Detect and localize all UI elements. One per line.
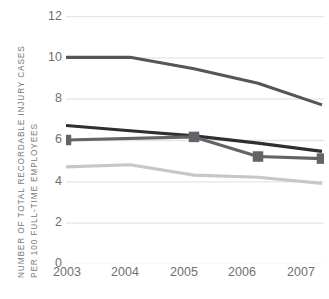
marker-series-3-square-markers-2007 <box>317 153 324 164</box>
line-series-1-dark-gray <box>66 57 322 105</box>
x-tick-2004: 2004 <box>102 266 148 279</box>
x-tick-2007: 2007 <box>278 266 324 279</box>
x-tick-2003: 2003 <box>44 266 90 279</box>
marker-series-3-square-markers-2003 <box>66 135 71 146</box>
plot-svg <box>66 16 324 264</box>
y-tick-10: 10 <box>36 51 62 64</box>
y-tick-12: 12 <box>36 10 62 23</box>
y-tick-8: 8 <box>36 92 62 105</box>
line-series-4-light-gray <box>66 165 322 184</box>
x-tick-2005: 2005 <box>161 266 207 279</box>
y-tick-6: 6 <box>36 133 62 146</box>
marker-series-3-square-markers-2005 <box>189 132 200 143</box>
y-tick-2: 2 <box>36 216 62 229</box>
x-axis-ticks: 2003 2004 2005 2006 2007 <box>66 266 324 288</box>
marker-series-3-square-markers-2006 <box>253 151 264 162</box>
y-tick-4: 4 <box>36 175 62 188</box>
injury-rate-line-chart: NUMBER OF TOTAL RECORDABLE INJURY CASES … <box>0 0 329 299</box>
plot-area <box>66 16 324 264</box>
series-layer <box>66 57 324 183</box>
y-axis-label: NUMBER OF TOTAL RECORDABLE INJURY CASES … <box>0 0 40 285</box>
y-axis-label-line-1: NUMBER OF TOTAL RECORDABLE INJURY CASES <box>16 45 26 278</box>
x-tick-2006: 2006 <box>219 266 265 279</box>
y-axis-ticks: 12 10 8 6 4 2 0 <box>36 0 62 285</box>
